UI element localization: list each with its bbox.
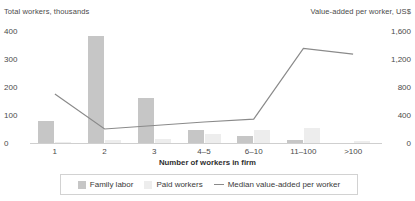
x-axis-baseline [30, 143, 382, 144]
legend-label-family-labor: Family labor [90, 180, 134, 189]
chart-legend: Family labor Paid workers Median value-a… [60, 174, 358, 195]
left-axis-tick-200: 200 [4, 83, 30, 92]
plot-area [30, 31, 378, 143]
legend-item-median-value-added[interactable]: Median value-added per worker [214, 180, 341, 189]
legend-item-family-labor[interactable]: Family labor [78, 180, 134, 189]
legend-label-median-value-added: Median value-added per worker [228, 180, 341, 189]
paid-workers-swatch-icon [144, 181, 152, 189]
left-axis-title: Total workers, thousands [4, 7, 89, 16]
chart-container: Total workers, thousands Value-added per… [0, 0, 415, 201]
left-axis-tick-100: 100 [4, 111, 30, 120]
x-axis-label: Number of workers in firm [0, 158, 415, 167]
left-axis-tick-400: 400 [4, 27, 30, 36]
legend-label-paid-workers: Paid workers [156, 180, 202, 189]
right-axis-tick-1600: 1,600 [377, 27, 411, 36]
legend-item-paid-workers[interactable]: Paid workers [144, 180, 202, 189]
median-line-swatch-icon [214, 184, 224, 185]
family-labor-swatch-icon [78, 181, 86, 189]
right-axis-tick-400: 400 [377, 111, 411, 120]
right-axis-tick-800: 800 [377, 83, 411, 92]
right-axis-tick-1200: 1,200 [377, 55, 411, 64]
x-axis-tick-6: >100 [323, 147, 383, 156]
line-series-median-value-added [30, 31, 378, 143]
left-axis-tick-300: 300 [4, 55, 30, 64]
right-axis-title: Value-added per worker, US$ [310, 7, 411, 16]
